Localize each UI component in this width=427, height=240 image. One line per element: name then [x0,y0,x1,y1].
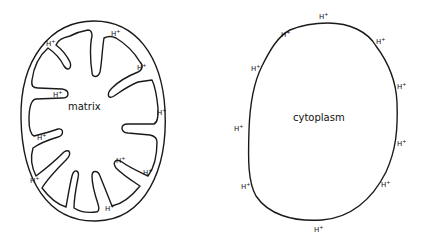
proton-label: H+ [319,11,328,21]
proton-label: H+ [241,181,250,191]
proton-label: H+ [111,28,120,38]
proton-label: H+ [234,123,243,133]
mitochondrion-ion-labels: H+ H+ H+ H+ H+ H+ H+ H+ H+ H+ [30,28,166,213]
cytoplasm-label: cytoplasm [293,112,345,123]
proton-label: H+ [46,38,55,48]
matrix-label: matrix [68,101,101,112]
proton-label: H+ [314,224,323,234]
outer-membrane [21,21,165,221]
proton-label: H+ [143,167,152,177]
mitochondrion [21,21,165,221]
proton-label: H+ [105,203,114,213]
proton-label: H+ [376,36,385,46]
proton-label: H+ [137,62,146,72]
proton-label: H+ [397,138,406,148]
proton-label: H+ [381,179,390,189]
diagram-canvas: matrix H+ H+ H+ H+ H+ H+ H+ H+ H+ H+ cyt… [0,0,427,240]
proton-label: H+ [281,29,290,39]
proton-label: H+ [30,175,39,185]
inner-membrane-cristae [29,30,158,212]
proton-label: H+ [37,132,46,142]
proton-label: H+ [397,81,406,91]
